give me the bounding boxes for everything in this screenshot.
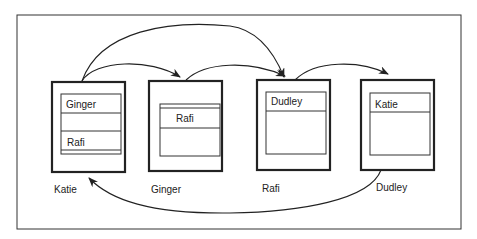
edge-katie-to-ginger — [82, 64, 180, 81]
queue-slot: Dudley — [271, 96, 302, 107]
node-label: Rafi — [262, 183, 280, 194]
queue-box — [160, 104, 220, 156]
queue-slot: Rafi — [176, 113, 194, 124]
node-katie: Ginger Rafi Katie — [52, 82, 125, 195]
node-label: Dudley — [376, 182, 407, 193]
node-rafi: Dudley Rafi — [257, 80, 330, 194]
queue-slot: Katie — [375, 99, 398, 110]
edge-ginger-to-rafi — [186, 65, 285, 80]
diagram-canvas: Ginger Rafi Katie Rafi Ginger Dudley Raf… — [0, 0, 477, 239]
edge-dudley-to-katie — [89, 170, 381, 213]
queue-slot: Rafi — [67, 137, 85, 148]
node-dudley: Katie Dudley — [361, 80, 434, 193]
node-label: Ginger — [151, 184, 182, 195]
edge-rafi-to-dudley — [295, 64, 388, 80]
node-label: Katie — [54, 184, 77, 195]
queue-slot: Ginger — [66, 99, 97, 110]
node-ginger: Rafi Ginger — [149, 81, 222, 195]
edge-katie-to-rafi — [82, 24, 284, 81]
